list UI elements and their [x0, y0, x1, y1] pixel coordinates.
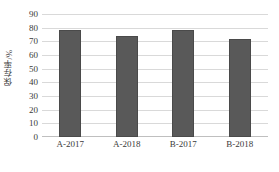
plot-area: [42, 14, 268, 137]
y-axis-tick-label: 30: [29, 92, 38, 101]
bar-chart: 保存率/% 9080706050403020100 A-2017A-2018B-…: [0, 0, 279, 172]
bar[interactable]: [59, 30, 81, 137]
y-axis-tick-label: 80: [29, 23, 38, 32]
y-axis-tick-label: 60: [29, 51, 38, 60]
x-axis-tick-label: B-2017: [155, 140, 212, 150]
bar[interactable]: [229, 39, 251, 137]
y-axis-tick-label: 70: [29, 37, 38, 46]
bar[interactable]: [116, 36, 138, 137]
bar-slot: [99, 14, 156, 137]
y-axis-tick-label: 40: [29, 78, 38, 87]
bars-layer: [42, 14, 268, 137]
x-axis-tick-label: A-2018: [99, 140, 156, 150]
y-axis-tick-label: 90: [29, 10, 38, 19]
y-axis-tick-labels: 9080706050403020100: [18, 14, 40, 137]
y-axis-tick-label: 10: [29, 119, 38, 128]
x-axis-tick-label: B-2018: [212, 140, 269, 150]
y-axis-tick-label: 0: [34, 133, 39, 142]
bar[interactable]: [172, 30, 194, 137]
y-axis-title-label: 保存率/%: [5, 50, 14, 86]
bar-slot: [42, 14, 99, 137]
x-axis-tick-labels: A-2017A-2018B-2017B-2018: [42, 140, 268, 156]
y-axis-tick-label: 20: [29, 105, 38, 114]
y-axis-title: 保存率/%: [0, 0, 18, 137]
bar-slot: [212, 14, 269, 137]
x-axis-tick-label: A-2017: [42, 140, 99, 150]
bar-slot: [155, 14, 212, 137]
y-axis-tick-label: 50: [29, 64, 38, 73]
